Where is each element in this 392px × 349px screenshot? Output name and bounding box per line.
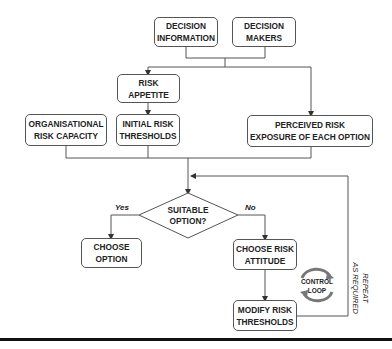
node-perceived-risk-exposure: PERCEIVED RISK EXPOSURE OF EACH OPTION	[247, 115, 373, 147]
node-modify-risk-thresholds: MODIFY RISK THRESHOLDS	[233, 300, 297, 331]
control-loop-label: CONTROL LOOP	[300, 277, 334, 295]
connector-lines	[0, 0, 392, 349]
bottom-divider	[0, 338, 392, 341]
node-decision-information: DECISION INFORMATION	[154, 17, 218, 47]
branch-label-no: No	[245, 203, 256, 212]
node-organisational-risk-capacity: ORGANISATIONAL RISK CAPACITY	[25, 114, 107, 146]
branch-label-yes: Yes	[115, 203, 129, 212]
node-risk-appetite: RISK APPETITE	[117, 74, 180, 103]
node-choose-option: CHOOSE OPTION	[81, 238, 142, 268]
node-decision-makers: DECISION MAKERS	[232, 17, 296, 47]
node-suitable-option: SUITABLE OPTION?	[158, 205, 218, 227]
node-initial-risk-thresholds: INITIAL RISK THRESHOLDS	[116, 114, 180, 146]
node-choose-risk-attitude: CHOOSE RISK ATTITUDE	[233, 239, 297, 270]
repeat-as-required-label: REPEAT AS REQUIRED	[350, 262, 370, 314]
